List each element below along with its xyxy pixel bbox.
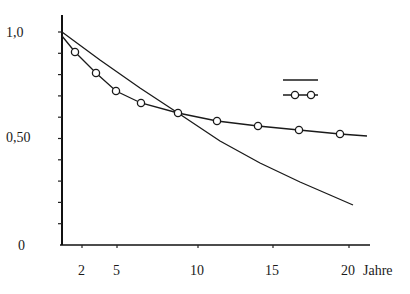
y-tick-label-1: 1,0 (6, 25, 24, 40)
y-tick-label-0-5: 0,50 (6, 130, 31, 145)
circle-marker (174, 109, 181, 116)
legend (283, 80, 318, 99)
legend-circle-marker (291, 91, 298, 98)
circle-marker (112, 87, 119, 94)
circle-marker (71, 48, 78, 55)
chart-canvas: 1,0 0,50 0 2 5 10 15 20 Jahre (0, 0, 410, 294)
x-tick-label-2: 2 (78, 263, 85, 278)
x-tick-label-10: 10 (190, 263, 204, 278)
series-circle-markers (71, 48, 343, 137)
circle-marker (295, 126, 302, 133)
x-tick-label-5: 5 (113, 263, 120, 278)
circle-marker (137, 99, 144, 106)
x-tick-label-15: 15 (265, 263, 279, 278)
axes (60, 15, 370, 245)
circle-marker (213, 117, 220, 124)
circle-marker (336, 130, 343, 137)
circle-marker (254, 122, 261, 129)
y-tick-label-0: 0 (18, 238, 25, 253)
x-tick-label-20: 20 (341, 263, 355, 278)
legend-circle-marker (307, 91, 314, 98)
circle-marker (92, 69, 99, 76)
x-axis-unit-label: Jahre (363, 263, 393, 278)
